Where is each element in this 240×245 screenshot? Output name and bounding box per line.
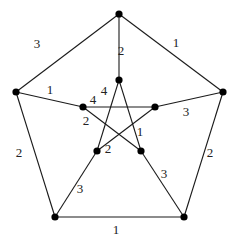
edge-outer_top-outer_right [119, 14, 223, 92]
node-inner_left [79, 103, 86, 110]
edge-label: 2 [207, 145, 214, 160]
node-inner_right [151, 103, 158, 110]
edge-label: 3 [77, 181, 84, 196]
edge-label: 4 [101, 83, 108, 98]
node-outer_right [219, 88, 226, 95]
edge-inner_top-inner_bottom_right [119, 80, 141, 151]
edge-label: 2 [105, 141, 112, 156]
edge-label: 3 [183, 104, 190, 119]
node-inner_top [115, 76, 122, 83]
edge-label: 1 [47, 82, 54, 97]
edge-label: 2 [83, 113, 90, 128]
node-outer_left [12, 88, 19, 95]
node-outer_top [115, 10, 122, 17]
edge-outer_right-outer_bottom_right [184, 92, 223, 217]
node-outer_bottom_right [180, 213, 187, 220]
node-inner_bottom_right [137, 147, 144, 154]
edge-label: 4 [90, 92, 97, 107]
edge-label: 2 [118, 43, 125, 58]
edge-label: 1 [137, 124, 144, 139]
edge-label: 1 [113, 222, 120, 237]
petersen-graph: 312212133344221 [0, 0, 240, 245]
edge-labels-layer: 312212133344221 [16, 35, 214, 237]
edge-label: 2 [16, 145, 23, 160]
node-inner_bottom_left [93, 147, 100, 154]
edge-label: 1 [173, 35, 180, 50]
edge-outer_top-outer_left [16, 14, 119, 92]
edge-label: 3 [34, 36, 41, 51]
edge-inner_left-inner_bottom_right [83, 107, 141, 151]
node-outer_bottom_left [51, 213, 58, 220]
edge-outer_bottom_right-inner_bottom_right [141, 151, 184, 217]
edge-label: 3 [161, 166, 168, 181]
